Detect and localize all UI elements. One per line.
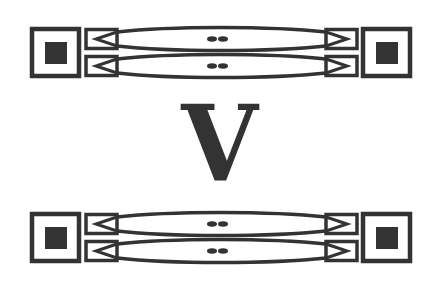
square-terminal-icon bbox=[32, 29, 79, 76]
versus-letter: V bbox=[11, 92, 428, 196]
top-connector-assembly bbox=[32, 28, 410, 78]
bottom-connector-assembly bbox=[32, 213, 410, 263]
lens-link-icon bbox=[86, 28, 357, 51]
square-terminal-icon bbox=[363, 214, 410, 261]
lens-link-icon bbox=[86, 240, 357, 263]
lens-link-icon bbox=[86, 213, 357, 236]
square-terminal-icon bbox=[32, 214, 79, 261]
lens-link-icon bbox=[86, 55, 357, 78]
square-terminal-icon bbox=[363, 29, 410, 76]
